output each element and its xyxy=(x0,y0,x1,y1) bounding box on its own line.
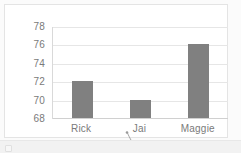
page-footer-strip xyxy=(0,140,241,153)
y-axis-tick-label: 78 xyxy=(19,22,45,32)
y-axis-tick-label: 76 xyxy=(19,40,45,50)
bar-maggie[interactable] xyxy=(188,44,209,118)
x-axis-category-label: Maggie xyxy=(169,123,227,135)
y-axis-tick-label: 70 xyxy=(19,96,45,106)
chart-panel: 78 76 74 72 70 68 Rick Jai Maggie xyxy=(4,4,228,138)
y-axis-tick-label: 72 xyxy=(19,77,45,87)
y-axis-tick-label: 74 xyxy=(19,59,45,69)
x-axis-category-label: Jai xyxy=(110,123,168,135)
x-axis-line xyxy=(53,118,228,119)
y-axis-tick-label: 68 xyxy=(19,114,45,124)
bar-rick[interactable] xyxy=(72,81,93,118)
plot-area xyxy=(52,27,227,119)
gridline xyxy=(53,27,228,28)
bar-chart: 78 76 74 72 70 68 Rick Jai Maggie xyxy=(9,9,233,143)
footer-marker-icon xyxy=(5,145,12,152)
page-surface: 78 76 74 72 70 68 Rick Jai Maggie xyxy=(0,0,241,153)
x-axis-category-label: Rick xyxy=(52,123,110,135)
bar-jai[interactable] xyxy=(130,100,151,118)
